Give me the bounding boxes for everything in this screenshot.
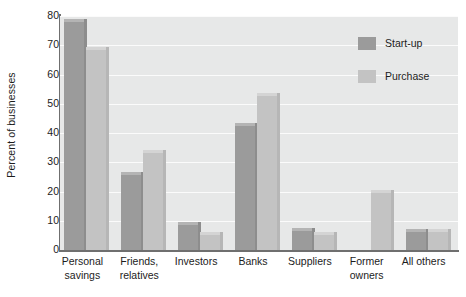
bar-face (64, 22, 84, 250)
x-tick-label-line1: Personal (62, 255, 103, 267)
bar-face (371, 193, 391, 250)
bar (314, 235, 334, 250)
y-tick-label: 40 (25, 127, 59, 137)
bar (143, 153, 163, 250)
y-tick-label: 10 (25, 215, 59, 225)
y-tick-label: 20 (25, 186, 59, 196)
bar (371, 193, 391, 250)
bar-top-face (121, 172, 141, 175)
bar (292, 231, 312, 250)
legend-item: Purchase (358, 66, 462, 86)
bar (428, 232, 448, 250)
bar-side-face (448, 229, 451, 250)
bar-top-face (257, 93, 277, 96)
y-tick-label: 50 (25, 98, 59, 108)
y-tick-label: 0 (25, 244, 59, 254)
legend-item: Start-up (358, 33, 462, 53)
bar-face (406, 232, 426, 250)
x-tick-label-line1: Investors (175, 255, 218, 267)
bar-face (143, 153, 163, 250)
bar (235, 126, 255, 250)
bar (86, 50, 106, 250)
bar-top-face (200, 232, 220, 235)
bar-face (200, 235, 220, 250)
bar-top-face (292, 228, 312, 231)
x-tick-label: Formerowners (338, 255, 395, 282)
bar (257, 96, 277, 250)
bar-face (314, 235, 334, 250)
x-tick-label: Suppliers (281, 255, 338, 269)
bar-face (178, 225, 198, 250)
bar-top-face (428, 229, 448, 232)
bar-top-face (371, 190, 391, 193)
bar-top-face (406, 229, 426, 232)
bar-top-face (178, 222, 198, 225)
legend-label: Start-up (385, 37, 422, 49)
bar-face (86, 50, 106, 250)
x-tick-label-line2: savings (54, 269, 111, 283)
bar (64, 22, 84, 250)
bar (406, 232, 426, 250)
x-tick-label: Personalsavings (54, 255, 111, 282)
legend-label: Purchase (385, 70, 429, 82)
bar (178, 225, 198, 250)
bar-side-face (163, 150, 166, 250)
bar-top-face (314, 232, 334, 235)
bar-side-face (391, 190, 394, 250)
bar-side-face (220, 232, 223, 250)
bar-side-face (334, 232, 337, 250)
bar-top-face (64, 19, 84, 22)
bar-face (257, 96, 277, 250)
x-axis-labels: PersonalsavingsFriends,relativesInvestor… (60, 255, 458, 297)
bar-side-face (106, 47, 109, 250)
bar-face (235, 126, 255, 250)
x-axis-line (59, 250, 459, 252)
bar-face (428, 232, 448, 250)
y-tick-label: 30 (25, 156, 59, 166)
x-tick-label-line1: Former (350, 255, 384, 267)
bar-side-face (277, 93, 280, 250)
bar (200, 235, 220, 250)
legend-swatch (358, 37, 376, 50)
bar-top-face (235, 123, 255, 126)
bar-top-face (143, 150, 163, 153)
bar (121, 175, 141, 250)
gridline (60, 16, 458, 17)
x-tick-label-line2: relatives (111, 269, 168, 283)
x-tick-label: Investors (168, 255, 225, 269)
x-tick-label: Friends,relatives (111, 255, 168, 282)
x-tick-label-line1: All others (402, 255, 446, 267)
y-axis-title-text: Percent of businesses (5, 72, 17, 177)
y-tick-label: 80 (25, 10, 59, 20)
x-tick-label-line2: owners (338, 269, 395, 283)
bar-face (121, 175, 141, 250)
x-tick-label-line1: Friends, (120, 255, 158, 267)
y-tick-label: 70 (25, 39, 59, 49)
legend-swatch (358, 70, 376, 83)
y-tick-label: 60 (25, 69, 59, 79)
x-tick-label: Banks (225, 255, 282, 269)
legend: Start-upPurchase (358, 33, 462, 99)
y-axis-ticks: 01020304050607080 (18, 0, 59, 297)
bar-chart: Percent of businesses 01020304050607080 … (0, 0, 466, 297)
bar-face (292, 231, 312, 250)
x-tick-label: All others (395, 255, 452, 269)
bar-top-face (86, 47, 106, 50)
x-tick-label-line1: Suppliers (288, 255, 332, 267)
x-tick-label-line1: Banks (238, 255, 267, 267)
